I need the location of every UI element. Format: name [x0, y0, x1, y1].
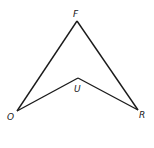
vertex-label-r: R	[139, 110, 145, 120]
edge-r-f	[77, 21, 138, 110]
edge-f-o	[17, 21, 77, 111]
edges	[17, 21, 138, 111]
vertex-label-f: F	[73, 9, 79, 19]
quadrilateral-diagram: F O U R	[0, 0, 154, 148]
edge-o-u	[17, 78, 78, 111]
vertex-label-u: U	[74, 84, 81, 94]
edge-u-r	[78, 78, 138, 110]
vertex-label-o: O	[7, 112, 14, 122]
